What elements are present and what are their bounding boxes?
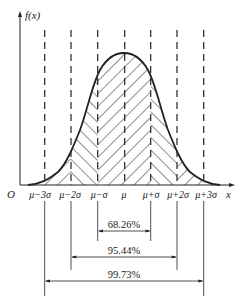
origin-label: O: [7, 188, 15, 200]
y-axis-label: f(x): [25, 9, 41, 22]
x-axis-label: x: [225, 188, 231, 200]
tick-label: μ+2σ: [166, 189, 190, 200]
y-axis-arrow-icon: [18, 11, 22, 17]
interval-68-label: 68.26%: [108, 219, 141, 230]
tick-labels: μ−3σ μ−2σ μ−σ μ μ+σ μ+2σ μ+3σ: [28, 189, 218, 200]
tick-label: μ+3σ: [194, 189, 218, 200]
tick-label: μ−3σ: [28, 189, 52, 200]
tick-label: μ+σ: [142, 189, 161, 200]
normal-distribution-diagram: f(x) O x μ−3σ μ−2σ μ−σ μ μ+σ μ+2σ μ+3σ 6…: [0, 0, 243, 308]
interval-labels: 68.26% 95.44% 99.73%: [108, 219, 141, 280]
tick-label: μ−σ: [90, 189, 109, 200]
interval-95-label: 95.44%: [108, 245, 141, 256]
hatched-area: [20, 40, 224, 185]
tick-label: μ−2σ: [58, 189, 82, 200]
x-axis-arrow-icon: [229, 183, 235, 187]
interval-99-label: 99.73%: [108, 269, 141, 280]
tick-label: μ: [120, 189, 126, 200]
